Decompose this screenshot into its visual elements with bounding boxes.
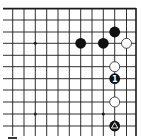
move-number-label: 1 bbox=[112, 75, 118, 84]
black-stone bbox=[109, 121, 120, 132]
go-board: 1 bbox=[0, 0, 141, 140]
white-stone bbox=[122, 38, 132, 48]
white-stone bbox=[110, 62, 120, 72]
white-stone bbox=[110, 97, 120, 107]
black-stone bbox=[98, 38, 109, 49]
star-point bbox=[102, 113, 105, 116]
star-point bbox=[34, 113, 37, 116]
black-stone: 1 bbox=[109, 73, 120, 84]
caption-marker bbox=[8, 137, 17, 139]
star-point bbox=[34, 42, 37, 45]
black-stone bbox=[109, 27, 120, 38]
black-stone bbox=[75, 38, 86, 49]
